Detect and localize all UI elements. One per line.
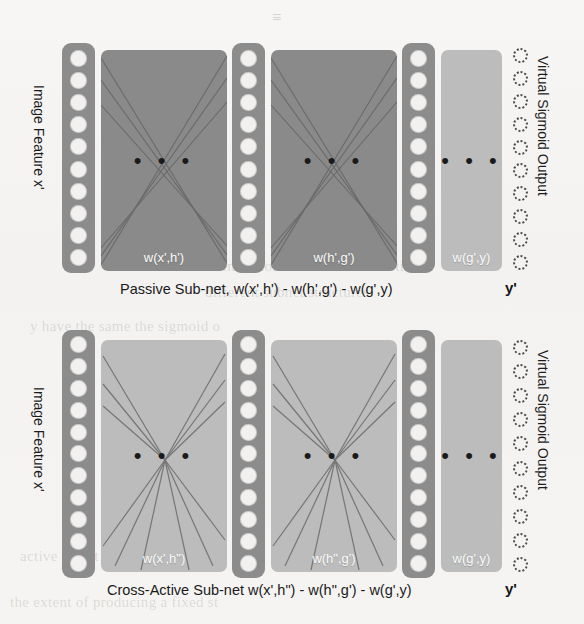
node [70,183,87,200]
node [240,161,257,178]
node [70,227,87,244]
node [240,249,257,266]
output-node [513,388,528,403]
node [70,161,87,178]
output-node [513,94,528,109]
output-node [513,533,528,548]
left-axis-label-passive: Image Feature x' [31,85,47,190]
node [410,511,427,528]
node [70,249,87,266]
node [240,94,257,111]
weight-block-label: w(g',y) [441,250,502,265]
node-column-input-cross-active [62,330,95,578]
node [240,50,257,67]
node [240,336,257,353]
output-node [513,140,528,155]
ellipsis-dots: • • • [441,445,502,467]
node [70,50,87,67]
weight-block-wh2g-cross-active: • • • w(h",g') [271,340,397,572]
node-column-hidden2-cross-active [402,330,435,578]
node [410,467,427,484]
node [70,72,87,89]
node [410,445,427,462]
node [70,511,87,528]
node [70,424,87,441]
node [240,424,257,441]
node [70,445,87,462]
ellipsis-dots: • • • [271,150,397,172]
node [410,533,427,550]
output-node [513,48,528,63]
ellipsis-dots: • • • [441,150,502,172]
node [410,94,427,111]
output-node [513,186,528,201]
node [410,72,427,89]
output-node [513,232,528,247]
node [410,249,427,266]
node [240,205,257,222]
output-node [513,557,528,572]
node [410,50,427,67]
node [240,489,257,506]
ellipsis-dots: • • • [271,445,397,467]
weight-block-wxh2-cross-active: • • • w(x',h") [101,340,227,572]
output-node [513,340,528,355]
node [410,489,427,506]
weight-block-label: w(h",g') [271,551,397,566]
node [410,336,427,353]
output-column-cross-active [510,340,530,572]
output-node [513,509,528,524]
node [410,358,427,375]
node [240,116,257,133]
node [410,205,427,222]
output-column-passive [510,48,530,270]
node [70,533,87,550]
node [410,138,427,155]
output-node [513,209,528,224]
node [70,402,87,419]
node-column-hidden1-cross-active [232,330,265,578]
node [410,116,427,133]
right-axis-label-passive: Virtual Sigmoid Output [535,56,551,196]
node [70,555,87,572]
node [410,161,427,178]
node-column-input-passive [62,43,95,273]
node [240,183,257,200]
node [70,358,87,375]
node [410,402,427,419]
weight-block-wgy-cross-active: • • • w(g',y) [441,340,502,572]
output-symbol-passive: y' [505,279,517,296]
node [70,380,87,397]
output-node [513,255,528,270]
node [410,380,427,397]
output-node [513,163,528,178]
weight-block-label: w(x',h") [101,551,227,566]
node [70,116,87,133]
output-node [513,117,528,132]
node [240,467,257,484]
node [240,555,257,572]
node [70,138,87,155]
node [70,205,87,222]
right-axis-label-cross-active: Virtual Sigmoid Output [535,350,551,490]
caption-cross-active: Cross-Active Sub-net w(x',h") - w(h",g')… [107,582,412,598]
output-node [513,436,528,451]
node [240,358,257,375]
ellipsis-dots: • • • [101,445,227,467]
left-axis-label-cross-active: Image Feature x' [31,387,47,492]
output-node [513,461,528,476]
weight-block-whg-passive: • • • w(h',g') [271,50,397,271]
node [410,555,427,572]
weight-block-label: w(x',h') [101,250,227,265]
node [240,402,257,419]
output-symbol-cross-active: y' [505,580,517,597]
node [240,445,257,462]
weight-block-label: w(h',g') [271,250,397,265]
node [70,489,87,506]
node [70,94,87,111]
node [240,380,257,397]
node [70,336,87,353]
node-column-hidden2-passive [402,43,435,273]
node [410,424,427,441]
node [240,533,257,550]
